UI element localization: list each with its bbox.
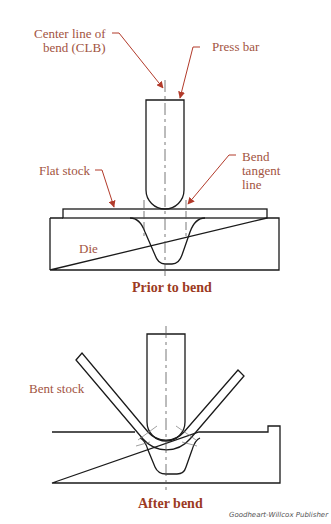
tangent-mark-right-1 [176,426,196,440]
clb-leader-arrow [112,33,163,88]
die-cavity-after [140,438,200,474]
bent-stock-label: Bent stock [29,382,84,396]
bent-stock [76,353,244,450]
bend-tangent-label-line2: tangent [242,164,280,178]
clb-label-line1: Center line of [34,27,105,41]
press-bar-leader-arrow [180,47,200,98]
flat-stock-label: Flat stock [39,164,90,178]
bend-tangent-line-label: Bend tangent line [242,150,280,192]
clb-label: Center line of bend (CLB) [34,27,105,55]
after-bend-caption: After bend [138,496,203,512]
publisher-credit: Goodheart-Willcox Publisher [229,511,328,519]
bend-tangent-label-line1: Bend [242,150,280,164]
prior-to-bend-caption: Prior to bend [132,280,212,296]
press-bar-label: Press bar [212,40,259,54]
press-brake-diagram [0,0,331,524]
bend-tangent-leader-arrow [188,155,236,204]
clb-label-line2: bend (CLB) [34,41,105,55]
flat-stock-leader-arrow [95,170,114,207]
die-label: Die [79,242,98,256]
die-cavity [50,218,205,270]
bend-tangent-label-line3: line [242,178,280,192]
